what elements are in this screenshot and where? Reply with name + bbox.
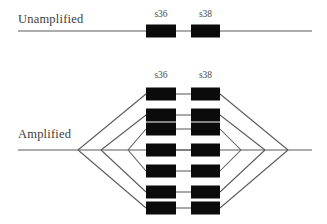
amplified-panel-label: Amplified (18, 127, 71, 142)
amplified-marker-s36 (146, 202, 176, 215)
unamplified-marker-s38 (191, 25, 220, 38)
amplified-marker-s38 (191, 165, 220, 178)
amplified-loop-outer (78, 94, 288, 208)
amplified-marker-s38 (191, 109, 220, 122)
amplified-marker-s38 (191, 144, 220, 157)
amplified-marker-s36 (146, 109, 176, 122)
unamplified-marker-label-s36: s36 (146, 9, 176, 19)
amplified-marker-label-s38: s38 (191, 70, 220, 80)
loop-middle-lower-left (101, 150, 146, 192)
amplified-marker-s36 (146, 88, 176, 101)
unamplified-marker-s36 (146, 25, 176, 38)
loop-middle-upper-left (101, 115, 146, 150)
amplified-marker-label-s36: s36 (146, 70, 176, 80)
amplified-marker-s38 (191, 202, 220, 215)
loop-middle-lower-right (220, 150, 265, 192)
amplified-marker-s36 (146, 165, 176, 178)
amplified-loop-middle (101, 115, 265, 192)
amplified-panel (18, 88, 312, 215)
diagram-canvas (0, 0, 327, 224)
unamplified-marker-label-s38: s38 (191, 9, 220, 19)
amplified-marker-s38 (191, 123, 220, 136)
amplified-marker-s38 (191, 186, 220, 199)
amplified-marker-s36 (146, 123, 176, 136)
unamplified-panel-label: Unamplified (18, 12, 83, 27)
amplified-marker-s36 (146, 186, 176, 199)
loop-inner-lower-left (128, 150, 146, 171)
loop-inner-upper-right (220, 129, 241, 150)
loop-inner-upper-left (128, 129, 146, 150)
loop-outer-lower-right (220, 150, 288, 208)
loop-inner-lower-right (220, 150, 241, 171)
amplified-marker-copies (146, 88, 220, 215)
amplified-marker-s36 (146, 144, 176, 157)
loop-middle-upper-right (220, 115, 265, 150)
gene-amplification-diagram: Unamplified s36 s38 Amplified s36 s38 (0, 0, 327, 224)
amplified-marker-s38 (191, 88, 220, 101)
